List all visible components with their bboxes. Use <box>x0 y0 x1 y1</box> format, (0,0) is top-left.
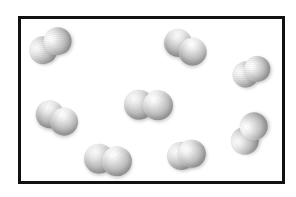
molecule-layer <box>21 19 282 181</box>
gas-container-box <box>18 16 285 184</box>
figure-root <box>0 0 296 197</box>
atom-sphere <box>142 90 173 121</box>
